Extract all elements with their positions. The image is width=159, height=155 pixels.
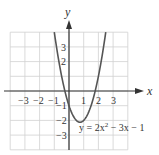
x-tick-label: 1 [81, 95, 86, 106]
y-tick-label: 2 [61, 56, 66, 67]
y-axis-label: y [64, 5, 71, 19]
parabola-graph: x y −3 −2 −1 1 2 3 3 2 −1 −2 −3 y = 2x2 … [0, 0, 159, 155]
y-tick-label: −3 [56, 130, 67, 141]
equation-label: y = 2x2 − 3x − 1 [79, 121, 144, 133]
y-tick-label: −2 [56, 115, 67, 126]
y-axis-arrow-icon [66, 20, 72, 29]
y-tick-label: 3 [61, 42, 66, 53]
y-axis: y [64, 5, 72, 150]
x-tick-label: −2 [33, 95, 44, 106]
x-tick-label: −3 [18, 95, 29, 106]
x-tick-label: 3 [111, 95, 116, 106]
y-tick-label: −1 [56, 100, 67, 111]
x-tick-label: 2 [96, 95, 101, 106]
x-axis-label: x [146, 84, 153, 98]
x-axis-arrow-icon [135, 88, 144, 94]
